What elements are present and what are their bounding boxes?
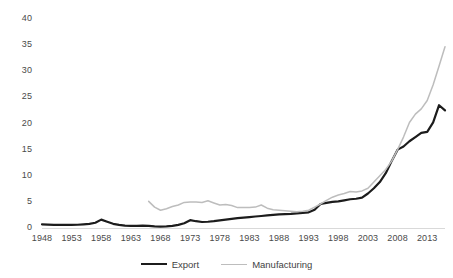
chart-legend: Export Manufacturing: [0, 254, 453, 274]
legend-line-export-icon: [141, 263, 167, 265]
series-canvas: [42, 19, 445, 228]
x-axis-line: [42, 228, 445, 229]
series-line-manufacturing: [149, 47, 445, 212]
y-tick-25: 25: [6, 91, 32, 101]
legend-label-export: Export: [172, 259, 199, 270]
y-tick-0: 0: [6, 222, 32, 232]
legend-item-manufacturing[interactable]: Manufacturing: [221, 259, 312, 270]
y-tick-30: 30: [6, 65, 32, 75]
y-tick-35: 35: [6, 39, 32, 49]
y-tick-10: 10: [6, 170, 32, 180]
x-tick-2013: 2013: [410, 233, 444, 243]
plot-area: [42, 19, 445, 228]
legend-label-manufacturing: Manufacturing: [252, 259, 312, 270]
series-line-export: [42, 105, 445, 226]
line-chart: 0510152025303540 19481953195819631968197…: [0, 0, 453, 278]
legend-line-manufacturing-icon: [221, 264, 247, 265]
legend-item-export[interactable]: Export: [141, 259, 199, 270]
y-tick-5: 5: [6, 196, 32, 206]
y-tick-20: 20: [6, 118, 32, 128]
y-tick-15: 15: [6, 144, 32, 154]
y-tick-40: 40: [6, 13, 32, 23]
